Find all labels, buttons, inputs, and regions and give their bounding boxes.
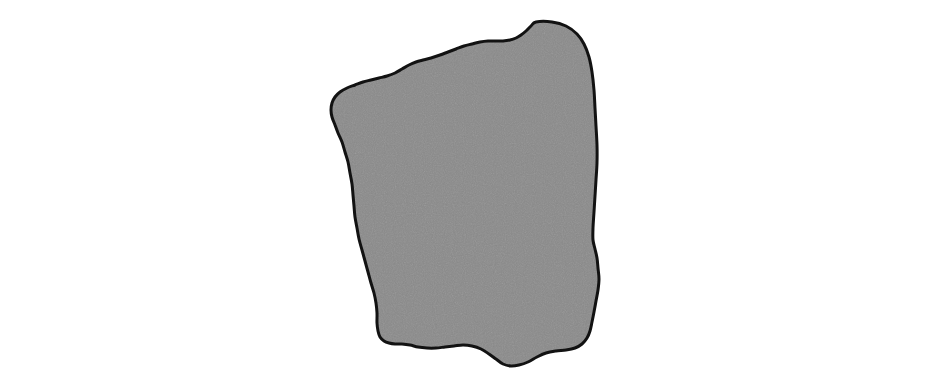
figure-root: Irregular shaded blob figure [0, 0, 937, 384]
shape-canvas [0, 0, 937, 384]
